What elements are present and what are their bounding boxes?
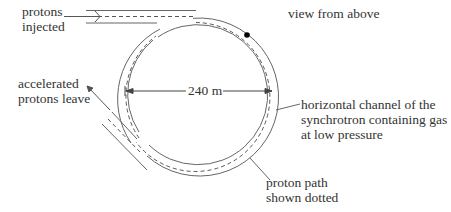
view-from-above-label: view from above bbox=[288, 6, 379, 21]
ring-outer-wall-left bbox=[118, 29, 160, 143]
proton-path-ring-left bbox=[126, 36, 156, 138]
accelerated-label: accelerated protons leave bbox=[18, 76, 90, 106]
channel-label: horizontal channel of the synchrotron co… bbox=[301, 97, 447, 142]
exit-arrow-icon bbox=[87, 86, 110, 110]
proton-dot bbox=[244, 32, 250, 38]
injected-label: protons injected bbox=[22, 4, 65, 34]
exit-channel-inner bbox=[112, 112, 137, 139]
path-label: proton path shown dotted bbox=[266, 175, 338, 205]
diameter-label: 240 m bbox=[187, 83, 223, 98]
injection-arrow-icon bbox=[64, 11, 100, 22]
channel-leader bbox=[276, 104, 300, 110]
